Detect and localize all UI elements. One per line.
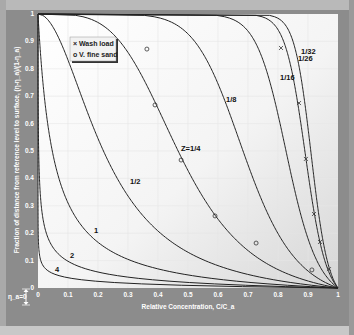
- y-tick-label: 0.8: [25, 65, 34, 72]
- curve-label: 2: [70, 251, 74, 260]
- curve-label: 1/8: [226, 95, 236, 104]
- curve-label: 1/16: [280, 73, 295, 82]
- y-axis-ticks: 00.10.20.30.40.50.60.70.80.91: [25, 10, 34, 291]
- curve-label: Z=1/4: [181, 144, 201, 153]
- legend: × Wash load o V. fine sand: [70, 37, 118, 63]
- y-tick-label: 0.2: [25, 229, 34, 236]
- x-tick-label: 0.2: [93, 291, 102, 298]
- y-tick-label: 0: [30, 284, 34, 291]
- curve-label: 1/2: [130, 177, 140, 186]
- legend-wash-load-marker: ×: [73, 40, 77, 47]
- x-tick-label: 0.1: [63, 291, 72, 298]
- y-tick-label: 0.1: [25, 257, 34, 264]
- up-arrow-icon: [24, 289, 29, 292]
- down-arrow-icon: [24, 302, 29, 305]
- y-tick-label: 0.3: [25, 202, 34, 209]
- y-tick-label: 0.9: [25, 37, 34, 44]
- curve-label: 1: [94, 226, 98, 235]
- legend-fine-sand-label: V. fine sand: [79, 51, 118, 58]
- reference-level-annotation: η_a=0: [8, 289, 30, 305]
- x-tick-label: 0.7: [243, 291, 252, 298]
- y-tick-label: 0.5: [25, 147, 34, 154]
- y-tick-label: 1: [30, 10, 34, 17]
- x-tick-label: 0.3: [123, 291, 132, 298]
- ref-level-label: η_a=0: [8, 293, 27, 301]
- x-tick-label: 0: [36, 291, 40, 298]
- rouse-profile-chart: 00.10.20.30.40.50.60.70.80.91 00.10.20.3…: [0, 0, 354, 335]
- y-tick-label: 0.6: [25, 120, 34, 127]
- legend-wash-load-label: Wash load: [79, 40, 114, 47]
- legend-fine-sand-marker: o: [73, 51, 77, 58]
- curve-label: 1/32: [301, 47, 316, 56]
- y-axis-title: Fraction of distance from reference leve…: [13, 47, 21, 254]
- x-tick-label: 0.5: [183, 291, 192, 298]
- x-tick-label: 1: [336, 291, 340, 298]
- y-tick-label: 0.7: [25, 92, 34, 99]
- x-axis-ticks: 00.10.20.30.40.50.60.70.80.91: [36, 291, 340, 298]
- x-tick-label: 0.9: [303, 291, 312, 298]
- x-tick-label: 0.4: [153, 291, 162, 298]
- y-tick-label: 0.4: [25, 174, 34, 181]
- x-tick-label: 0.6: [213, 291, 222, 298]
- x-tick-label: 0.8: [273, 291, 282, 298]
- x-axis-title: Relative Concentration, C/C_a: [142, 303, 235, 311]
